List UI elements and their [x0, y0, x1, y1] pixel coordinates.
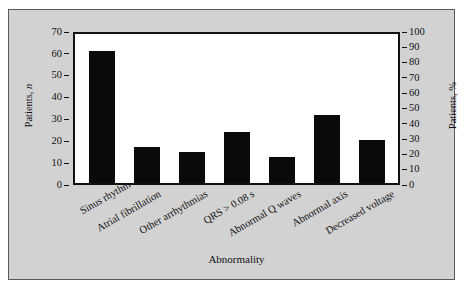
x-tick-label: Sinus rhythm: [78, 188, 116, 216]
y-tick-left-label: 10: [52, 158, 63, 169]
y-tick-right-label: 100: [409, 27, 425, 38]
bar: [179, 152, 205, 183]
y-tick-right-mark: [402, 62, 407, 63]
y-axis-left-title: Patients, n: [23, 61, 34, 151]
y-tick-right-mark: [402, 169, 407, 170]
y-tick-right-label: 30: [409, 134, 420, 145]
y-tick-right-label: 70: [409, 73, 420, 84]
x-axis-tick-labels: Sinus rhythmAtrial fibrillationOther arr…: [73, 188, 400, 258]
bar: [359, 140, 385, 183]
y-tick-left-label: 40: [52, 92, 63, 103]
y-tick-right-label: 80: [409, 57, 420, 68]
y-tick-right-mark: [402, 139, 407, 140]
y-tick-right-label: 40: [409, 119, 420, 130]
y-axis-right-title: Patients, %: [447, 61, 458, 151]
y-tick-right-mark: [402, 185, 407, 186]
y-tick-right-label: 0: [409, 180, 414, 191]
y-tick-right-label: 90: [409, 42, 420, 53]
bar: [134, 147, 160, 183]
y-tick-right-mark: [402, 47, 407, 48]
y-tick-left-mark: [64, 185, 69, 186]
y-axis-left-title-text: Patients,: [23, 89, 34, 128]
y-tick-right-label: 20: [409, 149, 420, 160]
y-tick-right-label: 50: [409, 103, 420, 114]
figure-panel: 010203040506070 0102030405060708090100 P…: [8, 9, 455, 280]
y-tick-right-mark: [402, 77, 407, 78]
y-tick-left-label: 60: [52, 49, 63, 60]
y-tick-left-mark: [64, 163, 69, 164]
x-axis-title: Abnormality: [73, 253, 400, 265]
y-tick-left-mark: [64, 53, 69, 54]
y-tick-left-label: 0: [57, 180, 62, 191]
y-tick-left-mark: [64, 75, 69, 76]
y-tick-right-mark: [402, 154, 407, 155]
y-tick-left-label: 50: [52, 70, 63, 81]
bar-series: [75, 34, 398, 183]
bar: [224, 132, 250, 183]
y-axis-left-title-variable: n: [23, 84, 34, 89]
y-tick-right-mark: [402, 32, 407, 33]
bar: [269, 157, 295, 183]
y-tick-left-mark: [64, 97, 69, 98]
y-tick-right-mark: [402, 93, 407, 94]
bar: [314, 115, 340, 183]
y-tick-left-mark: [64, 141, 69, 142]
bar: [89, 51, 115, 183]
y-tick-right-mark: [402, 123, 407, 124]
y-tick-left-mark: [64, 119, 69, 120]
y-tick-left-label: 70: [52, 27, 63, 38]
plot-area: [73, 32, 400, 185]
y-tick-right-label: 60: [409, 88, 420, 99]
y-axis-left: 010203040506070: [29, 32, 69, 185]
y-tick-left-mark: [64, 32, 69, 33]
y-tick-right-mark: [402, 108, 407, 109]
y-tick-left-label: 20: [52, 136, 63, 147]
y-tick-left-label: 30: [52, 114, 63, 125]
y-tick-right-label: 10: [409, 164, 420, 175]
y-axis-right: 0102030405060708090100: [402, 32, 442, 185]
